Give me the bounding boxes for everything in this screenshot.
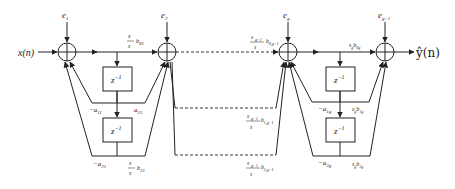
svg-text:s: s (250, 171, 252, 177)
delay-block-1: z−1 (103, 67, 132, 91)
coef-b2g1-label: s g−1 s b2,g−1 (246, 160, 273, 177)
coef-a1g-label: −a1g (318, 105, 332, 114)
svg-text:g−1: g−1 (251, 116, 258, 121)
coef-a21-label: a21 (134, 106, 143, 115)
error-eg-label: eg (283, 10, 290, 21)
svg-text:s: s (128, 33, 131, 39)
delay-block-g2: z−1 (326, 118, 355, 142)
svg-text:s: s (254, 44, 256, 50)
summing-junction-2 (158, 43, 176, 61)
coef-a2g-label: −a2g (318, 159, 332, 168)
feedback-a21-arrow (65, 62, 92, 156)
error-eg1-label: eg+1 (378, 10, 390, 21)
summing-junction-g-plus-1 (376, 43, 394, 61)
delay-block-2: z−1 (103, 118, 132, 142)
svg-text:b01: b01 (136, 38, 144, 46)
feedforward-b1g-arrow (369, 62, 383, 102)
summing-junction-1 (58, 43, 76, 61)
svg-text:b0,g−1: b0,g−1 (266, 38, 278, 47)
svg-text:b2,g−1: b2,g−1 (261, 164, 273, 173)
svg-text:g−1: g−1 (255, 37, 262, 42)
block-diagram: x(n) e1 s s b01 z−1 z−1 −a11 a21 −a21 (0, 0, 455, 189)
svg-text:z−1: z−1 (333, 74, 345, 85)
svg-text:s: s (129, 160, 132, 166)
svg-text:b21: b21 (137, 165, 145, 173)
svg-text:g−1: g−1 (251, 163, 258, 168)
feedforward-b21-arrow (145, 62, 168, 156)
svg-text:z−1: z−1 (333, 125, 345, 136)
svg-text:b1,g−1: b1,g−1 (261, 117, 273, 126)
svg-text:z−1: z−1 (110, 125, 122, 136)
error-e1-label: e1 (62, 10, 69, 21)
feedback-a11-arrow (70, 62, 92, 103)
feedforward-b2g1-arrow (276, 62, 286, 155)
coef-a11-label: −a11 (89, 106, 102, 115)
coef-b01-label: s s b01 (127, 33, 144, 49)
svg-text:s: s (247, 160, 249, 166)
svg-text:s: s (250, 124, 252, 130)
feedforward-a21-arrow (145, 62, 165, 103)
summing-junction-g (279, 43, 297, 61)
delay-block-g1: z−1 (326, 67, 355, 91)
svg-text:s: s (251, 34, 253, 40)
coef-b0g1-label: s g−1 s b0,g−1 (250, 34, 278, 50)
svg-text:s: s (129, 170, 132, 176)
feedback-a2g-arrow (289, 62, 313, 156)
coef-b2g-label: sgb2g (352, 161, 363, 169)
coef-b0g-label: sgb0g (349, 42, 360, 50)
coef-b21-label: s s b21 (128, 160, 145, 176)
output-label: ŷ(n) (415, 46, 440, 60)
error-e2-label: e2 (161, 10, 168, 21)
svg-text:z−1: z−1 (110, 74, 122, 85)
coef-a21-neg-label: −a21 (93, 160, 106, 169)
coef-b1g1-label: s g−1 s b1,g−1 (246, 113, 273, 130)
feedforward-b1g1-arrow (276, 62, 284, 108)
input-label: x(n) (17, 47, 35, 59)
svg-text:s: s (247, 113, 249, 119)
tap-down-left-2 (172, 62, 175, 155)
coef-b1g-label: sgb1g (352, 106, 363, 114)
svg-text:s: s (128, 43, 131, 49)
